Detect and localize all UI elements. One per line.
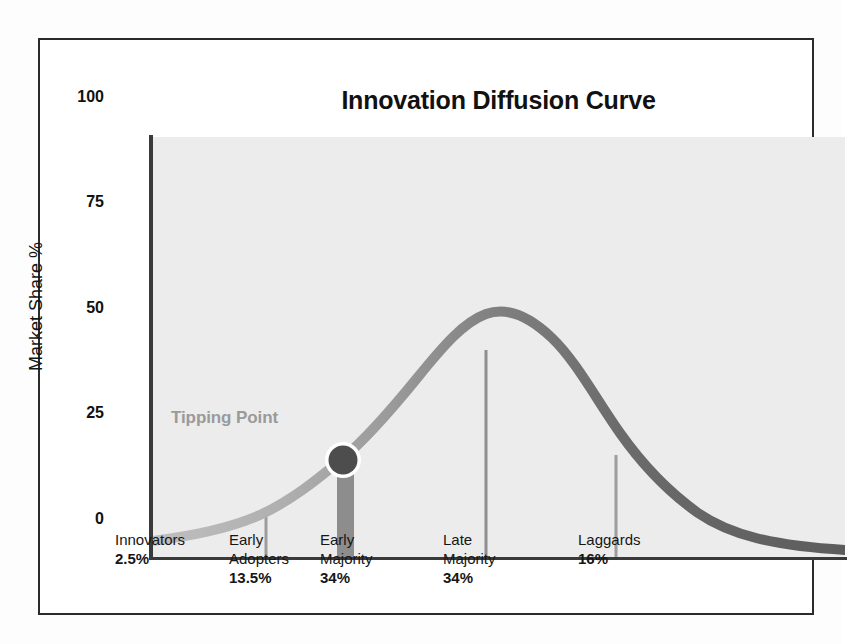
segment-label-early-majority: Early Majority 34%	[320, 530, 373, 587]
diffusion-curve-svg	[152, 137, 845, 558]
adoption-curve-path	[152, 311, 845, 550]
segment-name-innovators: Innovators	[115, 530, 185, 549]
chart-title: Innovation Diffusion Curve	[152, 86, 845, 115]
segment-name-laggards: Laggards	[578, 530, 641, 549]
segment-name-early-adopters-line1: Early	[229, 530, 289, 549]
segment-name-late-majority-line1: Late	[443, 530, 496, 549]
segment-label-innovators: Innovators 2.5%	[115, 530, 185, 568]
y-tick-100: 100	[44, 89, 104, 105]
y-axis-title: Market Share %	[26, 207, 47, 407]
tipping-point-label: Tipping Point	[171, 408, 278, 428]
tipping-point-marker[interactable]	[329, 446, 358, 475]
y-tick-25: 25	[44, 405, 104, 421]
y-tick-75: 75	[44, 194, 104, 210]
segment-name-early-majority-line1: Early	[320, 530, 373, 549]
y-tick-0: 0	[44, 511, 104, 527]
segment-label-late-majority: Late Majority 34%	[443, 530, 496, 587]
y-axis-ticks: 100 75 50 25 0	[38, 0, 104, 644]
segment-name-late-majority-line2: Majority	[443, 549, 496, 568]
segment-percent-innovators: 2.5%	[115, 549, 185, 568]
segment-percent-early-adopters: 13.5%	[229, 568, 289, 587]
chart-frame: Innovation Diffusion Curve	[38, 38, 814, 615]
segment-label-laggards: Laggards 16%	[578, 530, 641, 568]
segment-percent-late-majority: 34%	[443, 568, 496, 587]
segment-percent-early-majority: 34%	[320, 568, 373, 587]
y-axis-line	[149, 135, 153, 560]
y-tick-50: 50	[44, 300, 104, 316]
segment-label-early-adopters: Early Adopters 13.5%	[229, 530, 289, 587]
segment-name-early-majority-line2: Majority	[320, 549, 373, 568]
segment-percent-laggards: 16%	[578, 549, 641, 568]
segment-name-early-adopters-line2: Adopters	[229, 549, 289, 568]
plot-area	[152, 137, 845, 558]
